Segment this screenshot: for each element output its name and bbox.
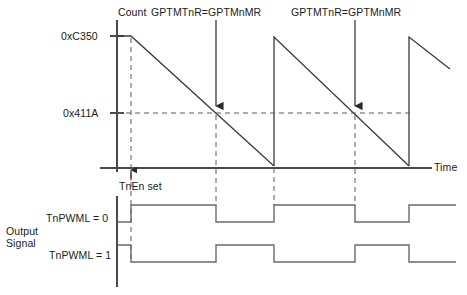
tnpwml0-label: TnPWML = 0 — [46, 212, 108, 224]
tick-label-0x411A: 0x411A — [63, 107, 98, 119]
output-signal-label-line1: Output — [6, 225, 38, 237]
timing-diagram: Count GPTMTnR=GPTMnMR GPTMTnR=GPTMnMR 0x… — [0, 0, 467, 295]
match1-annotation: GPTMTnR=GPTMnMR — [151, 6, 261, 18]
count-axis-label: Count — [118, 6, 147, 18]
count-ramp-2 — [274, 37, 409, 166]
tnpwml0-waveform — [117, 205, 456, 222]
match2-annotation: GPTMTnR=GPTMnMR — [291, 6, 401, 18]
tnen-set-label: TnEn set — [119, 180, 162, 192]
count-ramp-3 — [409, 37, 450, 166]
time-axis-label: Time — [434, 161, 457, 173]
tnpwml1-waveform — [117, 245, 456, 262]
tnpwml1-label: TnPWML = 1 — [49, 249, 111, 261]
count-ramp-1 — [117, 36, 274, 166]
tick-label-0xC350: 0xC350 — [61, 30, 98, 42]
output-signal-label-line2: Signal — [6, 237, 36, 249]
